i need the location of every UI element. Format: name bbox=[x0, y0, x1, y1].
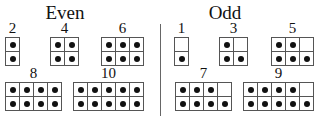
grid-cell bbox=[65, 52, 78, 65]
grid-cell bbox=[258, 83, 271, 96]
grid-cell bbox=[102, 83, 115, 96]
dot-icon bbox=[55, 42, 61, 48]
dot-icon bbox=[262, 101, 268, 107]
grid-cell bbox=[234, 38, 247, 51]
grid-cell bbox=[286, 83, 299, 96]
grid-cell bbox=[220, 38, 233, 51]
grid-cell bbox=[130, 38, 143, 51]
dot-icon bbox=[248, 87, 254, 93]
dot-icon bbox=[24, 101, 30, 107]
dot-grid bbox=[271, 37, 314, 66]
dot-icon bbox=[69, 42, 75, 48]
dot-icon bbox=[224, 56, 230, 62]
grid-cell bbox=[116, 52, 129, 65]
odd-array-3: 3 bbox=[219, 21, 248, 66]
dot-icon bbox=[78, 87, 84, 93]
grid-cell bbox=[116, 83, 129, 96]
dot-icon bbox=[106, 56, 112, 62]
dot-icon bbox=[304, 101, 310, 107]
dot-icon bbox=[222, 101, 228, 107]
dot-icon bbox=[194, 87, 200, 93]
grid-cell bbox=[244, 83, 257, 96]
dot-icon bbox=[120, 42, 126, 48]
dot-icon bbox=[92, 87, 98, 93]
grid-cell bbox=[48, 83, 61, 96]
dot-icon bbox=[179, 56, 185, 62]
grid-cell bbox=[204, 83, 217, 96]
dot-icon bbox=[120, 56, 126, 62]
dot-icon bbox=[276, 56, 282, 62]
dot-icon bbox=[208, 87, 214, 93]
odd-array-9: 9 bbox=[243, 66, 314, 111]
dot-icon bbox=[180, 87, 186, 93]
dot-grid bbox=[101, 37, 144, 66]
grid-cell bbox=[102, 38, 115, 51]
dot-grid bbox=[174, 37, 189, 66]
array-number-label: 6 bbox=[101, 21, 144, 36]
array-number-label: 8 bbox=[5, 66, 62, 81]
grid-cell bbox=[190, 97, 203, 110]
dot-icon bbox=[180, 101, 186, 107]
grid-cell bbox=[74, 83, 87, 96]
grid-cell bbox=[116, 38, 129, 51]
dot-icon bbox=[10, 87, 16, 93]
dot-icon bbox=[38, 101, 44, 107]
grid-cell bbox=[272, 52, 285, 65]
dot-icon bbox=[69, 56, 75, 62]
grid-cell bbox=[6, 38, 19, 51]
grid-cell bbox=[20, 97, 33, 110]
grid-cell bbox=[190, 83, 203, 96]
dot-icon bbox=[24, 87, 30, 93]
grid-cell bbox=[286, 97, 299, 110]
odd-array-5: 5 bbox=[271, 21, 314, 66]
grid-cell bbox=[20, 83, 33, 96]
dot-icon bbox=[55, 56, 61, 62]
grid-cell bbox=[272, 97, 285, 110]
dot-icon bbox=[134, 56, 140, 62]
dot-icon bbox=[10, 56, 16, 62]
grid-cell bbox=[244, 97, 257, 110]
dot-icon bbox=[276, 87, 282, 93]
grid-cell bbox=[300, 97, 313, 110]
dot-grid bbox=[73, 82, 144, 111]
even-array-10: 10 bbox=[73, 66, 144, 111]
grid-cell bbox=[88, 97, 101, 110]
dot-grid bbox=[175, 82, 232, 111]
grid-cell bbox=[300, 38, 313, 51]
dot-grid bbox=[5, 82, 62, 111]
array-number-label: 7 bbox=[175, 66, 232, 81]
dot-grid bbox=[50, 37, 79, 66]
dot-icon bbox=[304, 56, 310, 62]
grid-cell bbox=[6, 97, 19, 110]
odd-array-7: 7 bbox=[175, 66, 232, 111]
grid-cell bbox=[218, 97, 231, 110]
dot-icon bbox=[134, 42, 140, 48]
dot-icon bbox=[208, 101, 214, 107]
dot-icon bbox=[10, 42, 16, 48]
array-number-label: 1 bbox=[174, 21, 189, 36]
dot-icon bbox=[262, 87, 268, 93]
dot-icon bbox=[134, 87, 140, 93]
grid-cell bbox=[234, 52, 247, 65]
grid-cell bbox=[220, 52, 233, 65]
dot-icon bbox=[238, 56, 244, 62]
dot-icon bbox=[276, 42, 282, 48]
dot-grid bbox=[219, 37, 248, 66]
grid-cell bbox=[130, 83, 143, 96]
dot-icon bbox=[290, 42, 296, 48]
grid-cell bbox=[272, 38, 285, 51]
grid-cell bbox=[258, 97, 271, 110]
dot-icon bbox=[290, 101, 296, 107]
grid-cell bbox=[176, 97, 189, 110]
dot-icon bbox=[134, 101, 140, 107]
grid-cell bbox=[204, 97, 217, 110]
dot-icon bbox=[92, 101, 98, 107]
dot-icon bbox=[224, 42, 230, 48]
grid-cell bbox=[130, 97, 143, 110]
dot-grid bbox=[243, 82, 314, 111]
odd-array-1: 1 bbox=[174, 21, 189, 66]
grid-cell bbox=[6, 52, 19, 65]
array-number-label: 10 bbox=[73, 66, 144, 81]
grid-cell bbox=[51, 38, 64, 51]
dot-icon bbox=[120, 101, 126, 107]
